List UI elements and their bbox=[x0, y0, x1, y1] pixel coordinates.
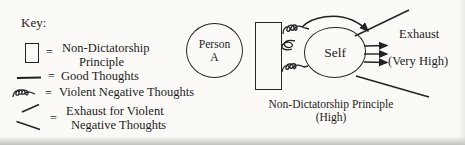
key-label-non-dictatorship: Non-Dictatorship bbox=[62, 42, 149, 55]
exhaust-label: Exhaust bbox=[399, 28, 439, 41]
self-label: Self bbox=[324, 45, 346, 61]
person-a-label-line1: Person bbox=[199, 38, 230, 51]
violent-thoughts-squiggle-middle bbox=[282, 40, 295, 49]
person-a-label-line2: A bbox=[210, 51, 218, 64]
violent-thoughts-squiggle-bottom bbox=[282, 64, 308, 72]
output-arrow-3 bbox=[364, 62, 387, 63]
non-dictatorship-rectangle bbox=[255, 22, 282, 90]
equals-sign: = bbox=[48, 70, 55, 82]
scan-bottom-shadow bbox=[0, 136, 465, 145]
good-thoughts-line-symbol bbox=[17, 78, 41, 79]
exhaust-lower-diagonal bbox=[356, 76, 429, 97]
very-high-label: (Very High) bbox=[388, 55, 448, 68]
figure-canvas: Key: = Non-Dictatorship Principle = Good… bbox=[0, 0, 465, 145]
exhaust-upper-line-symbol bbox=[22, 105, 39, 113]
key-label-violent-thoughts: Violent Negative Thoughts bbox=[59, 86, 194, 99]
self-circle: Self bbox=[304, 27, 366, 78]
output-arrow-1 bbox=[364, 46, 387, 47]
key-label-exhaust-2: Negative Thoughts bbox=[71, 119, 166, 132]
equals-sign: = bbox=[46, 46, 53, 58]
exhaust-lower-line-symbol bbox=[17, 122, 41, 130]
scan-right-shadow bbox=[458, 0, 465, 145]
equals-sign: = bbox=[45, 87, 52, 99]
equals-sign: = bbox=[50, 112, 57, 124]
violent-thoughts-squiggle-top bbox=[283, 25, 309, 34]
non-dictatorship-square-symbol bbox=[25, 43, 39, 63]
violent-thoughts-squiggle-symbol bbox=[13, 90, 35, 97]
key-label-good-thoughts: Good Thoughts bbox=[61, 70, 139, 83]
diagram-caption-line2: (High) bbox=[251, 111, 411, 123]
person-a-circle: Person A bbox=[186, 23, 243, 78]
key-label-principle: Principle bbox=[79, 56, 124, 69]
key-title: Key: bbox=[21, 16, 46, 30]
diagram-caption-line1: Non-Dictatorship Principle bbox=[251, 98, 411, 110]
key-label-exhaust-1: Exhaust for Violent bbox=[66, 105, 164, 118]
